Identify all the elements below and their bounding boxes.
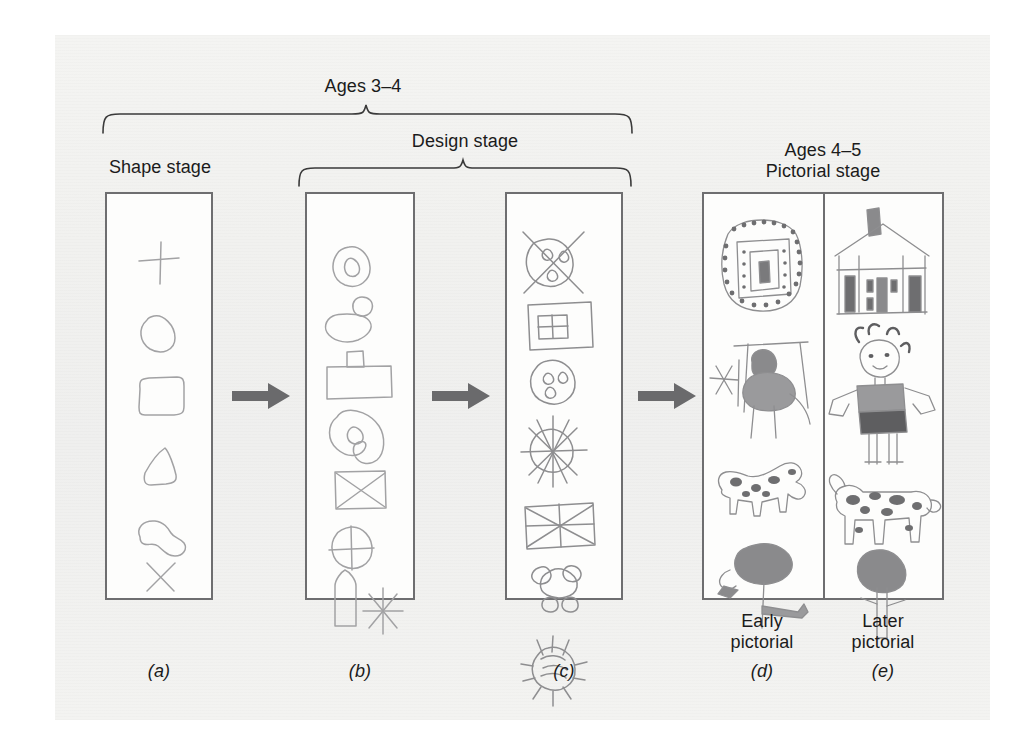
panel-c-design-stage-later[interactable]	[505, 192, 623, 600]
bracket-design-stage	[296, 158, 638, 188]
panel-b-design-stage-early[interactable]	[305, 192, 415, 600]
label-early-pictorial-line1: Early	[712, 611, 812, 632]
drawings-panel-e-later-pictorial	[825, 194, 942, 598]
caption-panel-a: (a)	[109, 661, 209, 682]
label-shape-stage: Shape stage	[80, 157, 240, 178]
caption-panel-c: (c)	[514, 661, 614, 682]
label-pictorial-stage: Pictorial stage	[743, 161, 903, 182]
drawings-panel-a	[107, 194, 211, 598]
label-later-pictorial-line1: Later	[833, 611, 933, 632]
figure-root: Ages 3–4 Design stage Shape stage Ages 4…	[0, 0, 1035, 753]
label-later-pictorial-line2: pictorial	[833, 632, 933, 653]
drawings-panel-b	[307, 194, 413, 598]
panel-de-pictorial-stage[interactable]	[702, 192, 944, 600]
panel-a-shape-stage[interactable]	[105, 192, 213, 600]
caption-panel-b: (b)	[310, 661, 410, 682]
label-ages-4-5: Ages 4–5	[743, 140, 903, 161]
bracket-ages-3-4	[100, 103, 640, 135]
arrow-c-to-d	[638, 382, 698, 412]
drawings-panel-c	[507, 194, 621, 598]
label-ages-3-4: Ages 3–4	[283, 76, 443, 97]
caption-panel-d: (d)	[712, 661, 812, 682]
arrow-a-to-b	[232, 382, 292, 412]
arrow-b-to-c	[432, 382, 492, 412]
caption-panel-e: (e)	[833, 661, 933, 682]
drawings-panel-d-early-pictorial	[704, 194, 822, 598]
label-early-pictorial-line2: pictorial	[712, 632, 812, 653]
